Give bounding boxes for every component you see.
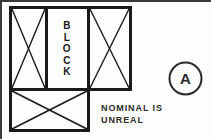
block-letter-b: B xyxy=(57,20,77,32)
drawing-canvas: B L O C K A NOMINAL IS UNREAL xyxy=(0,0,211,139)
block-letter-l: L xyxy=(57,32,77,44)
bottom-bay-cross-icon xyxy=(12,91,87,129)
annotation-line-2: UNREAL xyxy=(101,115,144,125)
block-letter-o: O xyxy=(57,43,77,55)
detail-marker-letter: A xyxy=(168,61,203,96)
block-label: B L O C K xyxy=(57,20,77,78)
right-bay-cross-icon xyxy=(90,9,129,88)
block-letter-k: K xyxy=(57,66,77,78)
detail-marker: A xyxy=(168,61,203,96)
annotation-line-1: NOMINAL IS xyxy=(101,103,163,113)
block-letter-c: C xyxy=(57,55,77,67)
left-bay-cross-icon xyxy=(12,9,45,88)
